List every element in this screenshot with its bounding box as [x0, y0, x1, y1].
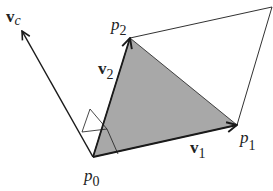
- vector-vc: [22, 31, 93, 157]
- label-v1: v1: [190, 138, 206, 161]
- label-p1: p1: [239, 128, 256, 153]
- triangle-diagram: vc p2 v2 p0 v1 p1: [0, 0, 273, 191]
- label-v2: v2: [98, 59, 114, 82]
- triangle-face: [93, 38, 237, 157]
- label-p2: p2: [110, 15, 127, 38]
- label-p0: p0: [83, 166, 100, 189]
- label-vc: vc: [6, 7, 22, 28]
